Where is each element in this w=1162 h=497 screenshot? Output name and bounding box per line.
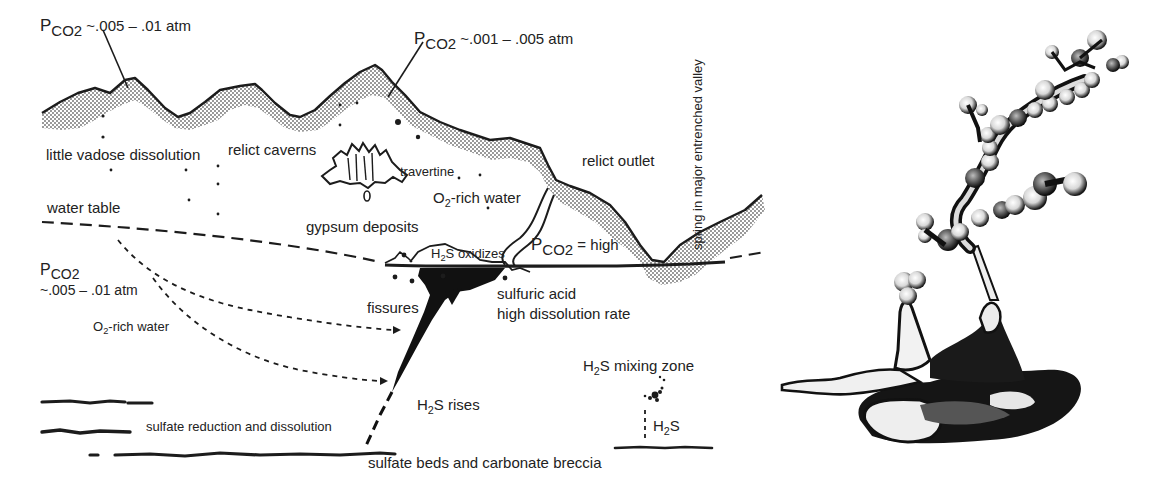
label-h2s-mixing-zone: H2S mixing zone (583, 358, 694, 377)
label-fissures: fissures (367, 300, 419, 315)
label-little-vadose: little vadose dissolution (46, 147, 200, 162)
sulfuric-acid-zone (392, 268, 505, 392)
label-spring-valley: spring in major entrenched valley (691, 0, 704, 250)
label-sulfate-beds: sulfate beds and carbonate breccia (368, 455, 602, 470)
label-water-table: water table (47, 200, 120, 215)
sulfate-bed-3 (90, 453, 395, 456)
flow-path-upper (118, 240, 393, 330)
label-gypsum-deposits: gypsum deposits (306, 219, 419, 234)
sulfate-bed-1 (42, 401, 152, 403)
label-pco2-phreatic: PCO2 ~.005 – .01 atm (40, 262, 138, 298)
fissure-dashed (365, 392, 392, 448)
sulfate-bed-2 (42, 430, 130, 433)
cross-section-diagram: PCO2 ~.005 – .01 atm PCO2 ~.001 – .005 a… (0, 0, 780, 497)
label-relict-outlet: relict outlet (582, 153, 655, 168)
label-o2-rich-water-upper: O2-rich water (433, 190, 521, 209)
label-sulfate-reduction: sulfate reduction and dissolution (146, 420, 332, 433)
label-travertine: travertine (400, 165, 454, 178)
label-pco2-upland: PCO2 ~.005 – .01 atm (40, 17, 191, 38)
h2s-mixing-zone-cluster (644, 376, 666, 402)
sulfate-bed-mixing (615, 447, 712, 448)
specimen-artwork (780, 0, 1162, 497)
leader-line-pco2-left (103, 30, 128, 88)
label-high-dissolution-rate: high dissolution rate (497, 306, 630, 321)
label-h2s-rises: H2S rises (417, 397, 480, 416)
cavern-drip (364, 191, 370, 201)
specimen-illustration (780, 0, 1162, 497)
label-pco2-ridge: PCO2 ~.001 – .005 atm (414, 30, 573, 51)
label-h2s-oxidizes: H2S oxidizes (431, 247, 505, 264)
specimen-right-mound (930, 308, 1025, 382)
label-sulfuric-acid: sulfuric acid (497, 286, 576, 301)
specimen-left-stalk (895, 302, 930, 370)
label-h2s: H2S (653, 418, 680, 437)
label-relict-caverns: relict caverns (228, 142, 316, 157)
label-o2-rich-water-lower: O2-rich water (93, 320, 169, 337)
flow-path-lower (153, 278, 380, 381)
specimen-beads (916, 30, 1129, 251)
label-pco2-high: PCO2 = high (531, 236, 619, 257)
